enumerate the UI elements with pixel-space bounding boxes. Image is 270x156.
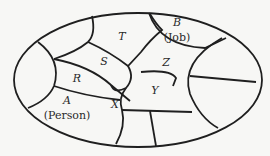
region-label-a: A: [62, 94, 71, 107]
region-label-s: S: [100, 55, 108, 68]
region-sublabel-a: (Person): [44, 109, 91, 122]
region-sublabel-b: (Job): [164, 31, 191, 44]
right-horizontal-boundary: [190, 76, 256, 82]
region-label-b: B: [172, 16, 181, 29]
region-label-t: T: [118, 30, 127, 43]
bottom-diagonal-boundary: [150, 111, 156, 146]
region-label-z: Z: [161, 56, 170, 69]
region-label-y: Y: [151, 84, 160, 97]
region-diagram: T B (Job) S Z R Y A (Person) X: [0, 0, 270, 156]
x-y-lower-boundary: [122, 110, 192, 112]
region-label-x: X: [110, 98, 120, 111]
region-label-r: R: [72, 72, 81, 85]
left-region-boundary: [28, 42, 56, 108]
right-region-boundary: [188, 38, 222, 128]
